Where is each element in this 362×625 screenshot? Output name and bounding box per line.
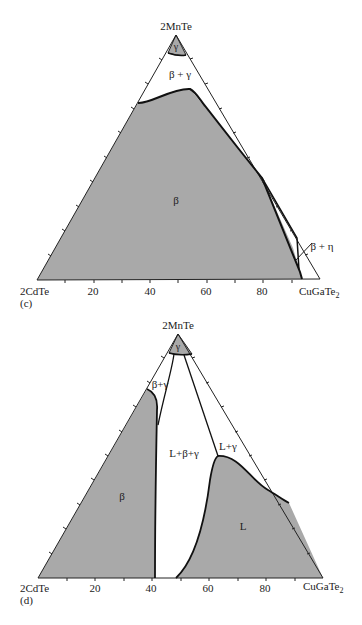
region-label-beta-eta: β + η: [310, 240, 333, 252]
right-label: CuGaTe2: [303, 580, 344, 595]
region-label-l-beta-gamma: L+β+γ: [169, 447, 199, 459]
panel-label: (d): [20, 594, 33, 607]
tick-label-60: 60: [203, 582, 215, 594]
region-label-gamma: γ: [173, 41, 179, 52]
tick-label-80: 80: [257, 285, 269, 297]
region-beta: [37, 89, 302, 280]
region-label-beta: β: [173, 194, 179, 206]
tick-label-40: 40: [145, 285, 157, 297]
diagram-c: 2MnTe γ β + γ β β + η 2CdTe (c) 20 40 60…: [20, 20, 340, 310]
tick-label-20: 20: [90, 582, 102, 594]
region-label-l: L: [240, 520, 247, 532]
panel-label: (c): [20, 297, 33, 310]
tick-label-80: 80: [260, 582, 272, 594]
region-label-gamma: γ: [175, 341, 181, 352]
left-label: 2CdTe: [20, 285, 49, 297]
phase-diagrams: 2MnTe γ β + γ β β + η 2CdTe (c) 20 40 60…: [0, 0, 362, 625]
tick-label-40: 40: [146, 582, 158, 594]
diagram-d: 2MnTe γ β+γ β L+β+γ L+γ L 2CdTe (d) 20 4…: [20, 319, 344, 607]
region-label-beta: β: [119, 490, 125, 502]
region-label-l-gamma: L+γ: [219, 440, 237, 452]
right-label: CuGaTe2: [299, 285, 340, 300]
apex-label: 2MnTe: [160, 20, 192, 32]
region-label-beta-gamma: β+γ: [152, 378, 169, 390]
tick-label-20: 20: [88, 285, 100, 297]
tick-label-60: 60: [201, 285, 213, 297]
region-beta: [38, 389, 157, 578]
left-label: 2CdTe: [20, 582, 49, 594]
tie-line-right: [184, 355, 218, 456]
region-label-beta-gamma: β + γ: [169, 68, 191, 80]
apex-label: 2MnTe: [162, 319, 194, 331]
